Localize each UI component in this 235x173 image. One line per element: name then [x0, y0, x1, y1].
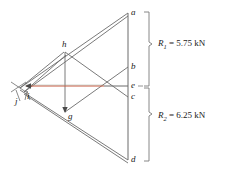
- node-label-b: b: [131, 62, 136, 71]
- force-diagram-figure: a b e c d h g i j R1 = 5.75 kN R2 = 6.25…: [0, 0, 235, 173]
- node-label-i: i: [27, 92, 30, 101]
- node-label-d: d: [131, 155, 136, 164]
- node-label-g: g: [68, 112, 73, 121]
- ray-group-upper: [20, 13, 128, 92]
- web-member-group: [62, 52, 128, 113]
- node-label-c: c: [131, 92, 135, 101]
- node-label-h: h: [62, 40, 67, 49]
- reaction-value-r1: = 5.75 kN: [169, 38, 205, 48]
- bracket-r2: [144, 88, 152, 161]
- member-h-c: [65, 52, 128, 97]
- node-label-j: j: [15, 97, 18, 106]
- node-label-e: e: [131, 81, 135, 90]
- diagram-canvas: [0, 0, 235, 173]
- horizontal-line-group: [25, 83, 128, 88]
- ray-group-lower: [20, 90, 128, 163]
- ray-i-a-parallel: [24, 16, 128, 92]
- reaction-subscript-r1: 1: [164, 43, 167, 50]
- member-g-b: [65, 67, 128, 112]
- reaction-value-r2: = 6.25 kN: [169, 110, 205, 120]
- chord-j-h: [20, 52, 64, 88]
- reaction-subscript-r2: 2: [164, 115, 167, 122]
- arrowhead-g: [62, 107, 67, 113]
- reaction-label-r1: R1 = 5.75 kN: [158, 39, 205, 50]
- ray-j-d: [20, 90, 128, 160]
- bracket-group: [138, 12, 152, 161]
- ray-j-a: [20, 13, 128, 88]
- reaction-label-r2: R2 = 6.25 kN: [158, 111, 205, 122]
- bracket-r1: [144, 12, 152, 86]
- node-label-a: a: [131, 8, 136, 17]
